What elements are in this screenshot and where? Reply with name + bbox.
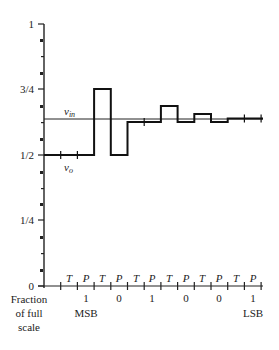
- vo-staircase: [44, 89, 263, 155]
- svg-text:scale: scale: [18, 321, 40, 333]
- svg-text:Fraction: Fraction: [11, 293, 48, 305]
- svg-text:P: P: [249, 272, 257, 284]
- y-tick-0: 0: [29, 280, 35, 292]
- svg-text:T: T: [166, 272, 173, 284]
- y-tick-1: 1: [29, 18, 35, 30]
- svg-text:1: 1: [149, 292, 155, 304]
- lsb-label: LSB: [243, 307, 263, 319]
- svg-text:T: T: [233, 272, 240, 284]
- svg-text:T: T: [99, 272, 106, 284]
- svg-text:T: T: [133, 272, 140, 284]
- svg-text:1: 1: [83, 292, 89, 304]
- svg-text:1: 1: [250, 292, 256, 304]
- sar-adc-diagram: 1 3/4 1/2 1/4 0 T P T P T P T P T P T P …: [0, 0, 279, 350]
- vo-label: vo: [64, 161, 73, 175]
- svg-text:0: 0: [183, 292, 189, 304]
- bit-labels: 1 0 1 0 0 1: [83, 292, 256, 304]
- svg-text:P: P: [148, 272, 156, 284]
- x-axis-label: Fraction of full scale: [11, 293, 48, 333]
- y-major-ticks: [38, 24, 44, 286]
- vin-label: vin: [64, 105, 75, 119]
- svg-text:T: T: [66, 272, 73, 284]
- svg-text:of full: of full: [15, 307, 42, 319]
- y-tick-1-4: 1/4: [20, 214, 35, 226]
- y-tick-3-4: 3/4: [20, 83, 35, 95]
- y-tick-1-2: 1/2: [20, 149, 34, 161]
- msb-label: MSB: [74, 307, 97, 319]
- svg-text:T: T: [199, 272, 206, 284]
- svg-text:P: P: [115, 272, 123, 284]
- svg-text:0: 0: [116, 292, 122, 304]
- svg-text:P: P: [215, 272, 223, 284]
- svg-text:P: P: [82, 272, 90, 284]
- svg-text:0: 0: [216, 292, 222, 304]
- svg-text:P: P: [182, 272, 190, 284]
